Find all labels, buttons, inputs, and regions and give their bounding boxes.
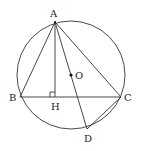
center-point-o — [69, 73, 72, 76]
segment-ab — [20, 22, 55, 97]
segment-cd — [87, 97, 121, 129]
point-a — [54, 21, 56, 23]
label-o: O — [75, 70, 83, 81]
label-h: H — [51, 101, 60, 112]
label-c: C — [124, 92, 132, 103]
right-angle-mark — [50, 92, 55, 97]
geometry-diagram: A B C H O D — [0, 0, 141, 151]
label-a: A — [49, 8, 58, 19]
label-b: B — [9, 92, 16, 103]
segment-ac — [55, 22, 121, 97]
label-d: D — [84, 133, 92, 144]
